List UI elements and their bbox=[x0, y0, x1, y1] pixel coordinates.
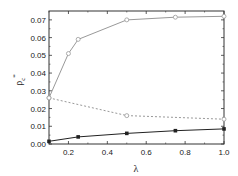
data-point-open-circle bbox=[222, 117, 226, 121]
data-point-open-circle bbox=[47, 96, 51, 100]
y-tick-label: 0.00 bbox=[30, 140, 46, 149]
x-axis-label: λ bbox=[134, 163, 139, 174]
y-tick-label: 0.04 bbox=[30, 69, 46, 78]
x-tick-label: 1.0 bbox=[218, 148, 230, 157]
y-tick-label: 0.06 bbox=[30, 34, 46, 43]
y-tick-label: 0.02 bbox=[30, 105, 46, 114]
data-point-filled-square bbox=[47, 140, 51, 144]
series-1 bbox=[47, 96, 226, 121]
data-point-open-circle bbox=[125, 114, 129, 118]
data-series bbox=[47, 14, 226, 143]
x-axis-ticks: 0.20.40.60.81.0 bbox=[49, 11, 230, 157]
data-point-open-circle bbox=[66, 52, 70, 56]
y-tick-label: 0.05 bbox=[30, 51, 46, 60]
y-axis-label-sub: c bbox=[19, 78, 27, 81]
plot-frame bbox=[49, 11, 224, 144]
x-tick-label: 0.6 bbox=[141, 148, 153, 157]
data-point-filled-square bbox=[125, 132, 129, 136]
y-tick-label: 0.03 bbox=[30, 87, 46, 96]
chart: 0.000.010.020.030.040.050.060.07 0.20.40… bbox=[0, 0, 238, 176]
data-point-filled-square bbox=[222, 127, 226, 131]
series-0 bbox=[47, 14, 226, 100]
data-point-filled-square bbox=[174, 129, 178, 133]
data-point-open-circle bbox=[173, 15, 177, 19]
y-axis-label: ρc* bbox=[11, 74, 27, 86]
data-point-open-circle bbox=[222, 14, 226, 18]
x-tick-label: 0.8 bbox=[180, 148, 192, 157]
svg-text:ρc*: ρc* bbox=[11, 74, 27, 86]
data-point-open-circle bbox=[125, 18, 129, 22]
series-2 bbox=[47, 127, 226, 143]
x-tick-label: 0.2 bbox=[63, 148, 75, 157]
y-tick-label: 0.07 bbox=[30, 16, 46, 25]
y-axis-ticks: 0.000.010.020.030.040.050.060.07 bbox=[30, 16, 224, 149]
data-point-filled-square bbox=[76, 135, 80, 139]
x-tick-label: 0.4 bbox=[102, 148, 114, 157]
y-tick-label: 0.01 bbox=[30, 122, 46, 131]
data-point-open-circle bbox=[76, 37, 80, 41]
y-axis-label-sup: * bbox=[11, 74, 19, 78]
